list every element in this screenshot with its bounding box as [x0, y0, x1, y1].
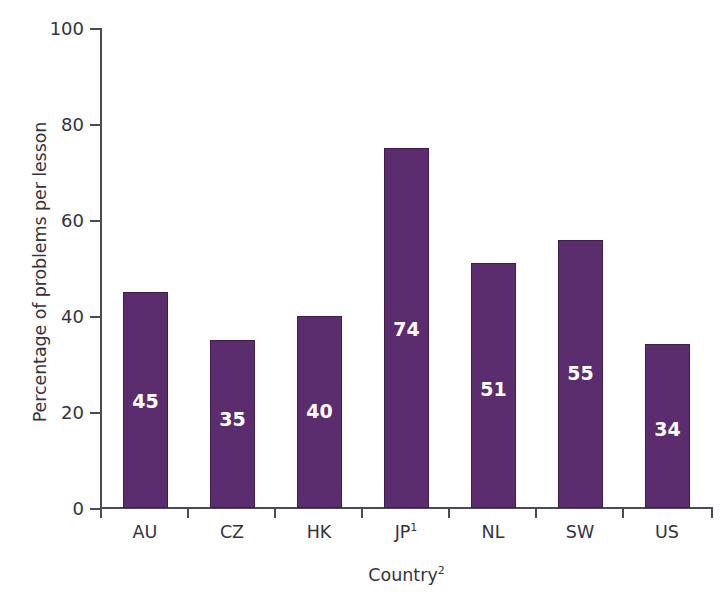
- bar-value-nl: 51: [471, 378, 516, 400]
- y-tick-label-100: 100: [32, 18, 84, 39]
- x-axis-tick-3: [361, 507, 363, 518]
- y-tick-label-80: 80: [32, 114, 84, 135]
- x-tick-label-us-text: US: [655, 522, 679, 542]
- y-tick-label-0: 0: [32, 498, 84, 519]
- bar-value-jp: 74: [384, 318, 429, 340]
- x-axis-title-text: Country: [368, 565, 438, 585]
- y-tick-label-60: 60: [32, 210, 84, 231]
- x-tick-label-hk: HK: [276, 522, 362, 542]
- x-axis-tick-5: [535, 507, 537, 518]
- x-tick-label-jp-text: JP: [395, 522, 411, 542]
- x-axis-title: Country2: [100, 565, 713, 585]
- x-tick-label-us: US: [624, 522, 710, 542]
- x-axis-tick-4: [448, 507, 450, 518]
- bar-value-cz: 35: [210, 408, 255, 430]
- x-tick-label-au-text: AU: [133, 522, 158, 542]
- x-tick-label-nl: NL: [450, 522, 536, 542]
- bar-chart: Percentage of problems per lesson 100 80…: [0, 0, 723, 599]
- x-tick-label-jp: JP1: [363, 522, 449, 542]
- x-tick-label-jp-footnote: 1: [410, 521, 417, 534]
- x-tick-label-cz-text: CZ: [220, 522, 244, 542]
- x-tick-label-sw-text: SW: [566, 522, 594, 542]
- x-tick-label-hk-text: HK: [307, 522, 332, 542]
- x-axis-tick-2: [274, 507, 276, 518]
- x-axis-tick-1: [187, 507, 189, 518]
- x-axis-title-footnote: 2: [438, 564, 445, 577]
- bar-value-au: 45: [123, 390, 168, 412]
- x-axis-tick-0: [100, 507, 102, 518]
- x-tick-label-sw: SW: [537, 522, 623, 542]
- bar-value-us: 34: [645, 418, 690, 440]
- x-tick-label-nl-text: NL: [482, 522, 505, 542]
- x-tick-label-au: AU: [102, 522, 188, 542]
- x-axis-tick-6: [622, 507, 624, 518]
- y-tick-label-40: 40: [32, 306, 84, 327]
- bar-value-hk: 40: [297, 400, 342, 422]
- bar-value-sw: 55: [558, 362, 603, 384]
- y-axis-line: [100, 28, 102, 509]
- x-axis-tick-7: [711, 507, 713, 518]
- x-tick-label-cz: CZ: [189, 522, 275, 542]
- y-tick-label-20: 20: [32, 402, 84, 423]
